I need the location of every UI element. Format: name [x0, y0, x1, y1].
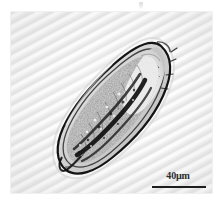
- scale-bar: 40µm: [149, 170, 207, 193]
- figure-root: 40µm: [0, 0, 223, 201]
- scale-bar-label: 40µm: [149, 170, 207, 182]
- specimen-body: [33, 28, 183, 180]
- micrograph-image: 40µm: [11, 12, 212, 193]
- scale-bar-line: [152, 186, 206, 188]
- top-edge-artifact-icon: [139, 2, 143, 9]
